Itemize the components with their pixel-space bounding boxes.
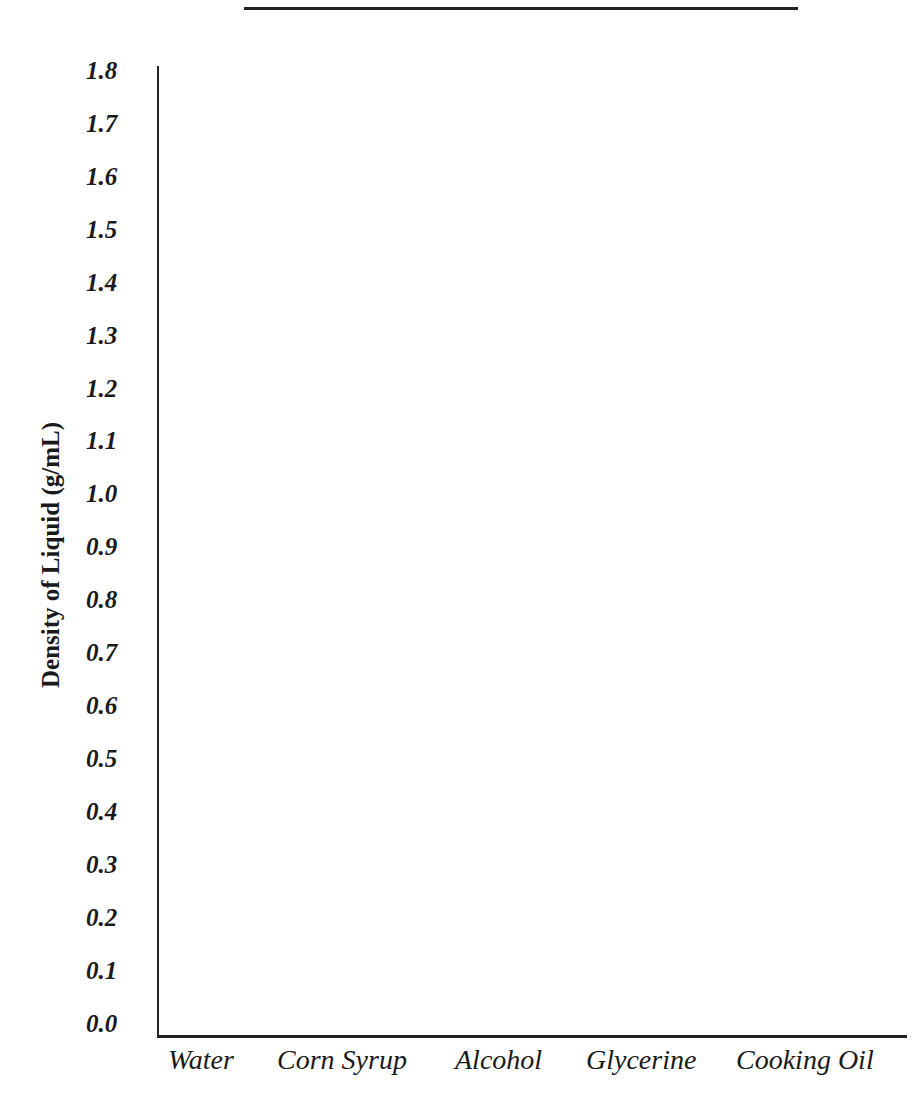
y-tick: 0.4 [86, 798, 146, 826]
y-tick: 1.0 [86, 480, 146, 508]
y-tick: 0.7 [86, 639, 146, 667]
y-tick: 0.0 [86, 1010, 146, 1038]
y-tick: 1.3 [86, 322, 146, 350]
y-tick: 1.1 [86, 427, 146, 455]
y-tick: 1.6 [86, 163, 146, 191]
x-tick-glycerine: Glycerine [586, 1043, 696, 1077]
y-tick: 0.5 [86, 745, 146, 773]
y-tick: 1.2 [86, 375, 146, 403]
y-tick: 1.5 [86, 216, 146, 244]
y-tick: 0.8 [86, 586, 146, 614]
y-tick: 0.1 [86, 957, 146, 985]
x-axis-line [157, 1035, 907, 1038]
x-tick-corn-syrup: Corn Syrup [277, 1043, 407, 1077]
y-tick: 0.2 [86, 904, 146, 932]
y-tick: 0.9 [86, 533, 146, 561]
y-tick: 1.7 [86, 110, 146, 138]
x-tick-alcohol: Alcohol [455, 1043, 542, 1077]
y-axis-line [157, 66, 159, 1038]
y-tick: 1.4 [86, 269, 146, 297]
y-axis-label: Density of Liquid (g/mL) [37, 422, 65, 688]
x-tick-water: Water [168, 1043, 234, 1077]
y-tick: 0.3 [86, 851, 146, 879]
y-tick: 1.8 [86, 57, 146, 85]
title-blank-line [244, 7, 798, 10]
y-tick: 0.6 [86, 692, 146, 720]
x-tick-cooking-oil: Cooking Oil [736, 1043, 874, 1077]
